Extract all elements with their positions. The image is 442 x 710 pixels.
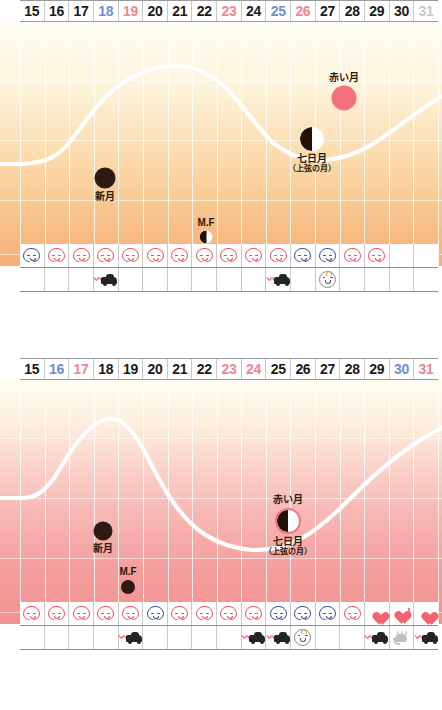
mood-cell-23[interactable] — [217, 244, 242, 267]
mood-cell-28[interactable] — [340, 602, 365, 625]
day-cell-29[interactable]: 29 — [365, 359, 390, 379]
day-cell-30[interactable]: 30 — [390, 1, 415, 21]
event-cell-20[interactable] — [143, 626, 168, 649]
heart-icon[interactable] — [419, 607, 434, 621]
day-cell-22[interactable]: 22 — [192, 1, 217, 21]
event-cell-15[interactable] — [20, 626, 45, 649]
face-icon[interactable] — [196, 248, 213, 264]
event-cell-21[interactable] — [168, 626, 193, 649]
event-cell-20[interactable] — [143, 268, 168, 291]
face-icon[interactable] — [171, 248, 188, 264]
day-cell-27[interactable]: 27 — [316, 1, 341, 21]
face-icon[interactable] — [368, 248, 385, 264]
day-cell-16[interactable]: 16 — [45, 1, 70, 21]
face-icon[interactable] — [48, 248, 65, 264]
day-cell-22[interactable]: 22 — [192, 359, 217, 379]
face-icon[interactable] — [147, 606, 164, 622]
face-icon[interactable] — [270, 248, 287, 264]
mood-cell-27[interactable] — [316, 602, 341, 625]
mood-cell-24[interactable] — [242, 602, 267, 625]
heart-icon[interactable] — [369, 607, 384, 621]
day-cell-16[interactable]: 16 — [45, 359, 70, 379]
day-cell-18[interactable]: 18 — [94, 1, 119, 21]
day-cell-17[interactable]: 17 — [69, 359, 94, 379]
day-cell-15[interactable]: 15 — [20, 1, 45, 21]
car-icon[interactable]: 〰 — [365, 631, 388, 644]
event-cell-25[interactable]: 〰 — [266, 268, 291, 291]
mood-cell-17[interactable] — [69, 602, 94, 625]
car-icon[interactable]: 〰 — [415, 631, 438, 644]
car-icon[interactable]: 〰 — [242, 631, 265, 644]
mood-cell-27[interactable] — [316, 244, 341, 267]
event-cell-23[interactable] — [217, 626, 242, 649]
event-cell-24[interactable]: 〰 — [242, 626, 267, 649]
event-cell-31[interactable]: 〰 — [414, 626, 438, 649]
event-cell-17[interactable] — [69, 268, 94, 291]
day-cell-25[interactable]: 25 — [266, 359, 291, 379]
day-cell-19[interactable]: 19 — [119, 359, 144, 379]
mood-cell-30[interactable]: ! — [390, 602, 415, 625]
face-icon[interactable] — [319, 606, 336, 622]
splash-icon[interactable] — [392, 631, 411, 645]
face-icon[interactable] — [97, 248, 114, 264]
event-cell-29[interactable]: 〰 — [365, 626, 390, 649]
day-cell-23[interactable]: 23 — [217, 359, 242, 379]
day-cell-24[interactable]: 24 — [242, 1, 267, 21]
day-cell-20[interactable]: 20 — [143, 1, 168, 21]
event-cell-21[interactable] — [168, 268, 193, 291]
face-icon[interactable] — [270, 606, 287, 622]
mood-cell-29[interactable] — [365, 244, 390, 267]
day-cell-26[interactable]: 26 — [291, 359, 316, 379]
mood-cell-20[interactable] — [143, 244, 168, 267]
mood-cell-18[interactable] — [94, 602, 119, 625]
day-cell-26[interactable]: 26 — [291, 1, 316, 21]
face-icon[interactable] — [122, 606, 139, 622]
mood-cell-20[interactable] — [143, 602, 168, 625]
mood-cell-23[interactable] — [217, 602, 242, 625]
event-cell-25[interactable]: 〰 — [266, 626, 291, 649]
heart-icon[interactable] — [392, 606, 407, 620]
face-icon[interactable] — [319, 248, 336, 264]
event-cell-28[interactable] — [340, 626, 365, 649]
mood-cell-25[interactable] — [266, 244, 291, 267]
day-cell-27[interactable]: 27 — [316, 359, 341, 379]
day-cell-31[interactable]: 31 — [414, 1, 438, 21]
mood-cell-15[interactable] — [20, 602, 45, 625]
event-cell-18[interactable] — [94, 626, 119, 649]
event-cell-18[interactable]: 〰 — [94, 268, 119, 291]
face-icon[interactable] — [294, 248, 311, 264]
event-cell-17[interactable] — [69, 626, 94, 649]
face-icon[interactable] — [220, 606, 237, 622]
mood-cell-15[interactable] — [20, 244, 45, 267]
mood-cell-24[interactable] — [242, 244, 267, 267]
mood-cell-25[interactable] — [266, 602, 291, 625]
mood-cell-17[interactable] — [69, 244, 94, 267]
day-cell-17[interactable]: 17 — [69, 1, 94, 21]
face-icon[interactable] — [23, 606, 40, 622]
event-cell-19[interactable] — [119, 268, 144, 291]
event-cell-27[interactable] — [316, 626, 341, 649]
event-cell-19[interactable]: 〰 — [119, 626, 144, 649]
face-icon[interactable] — [344, 606, 361, 622]
face-icon[interactable] — [73, 248, 90, 264]
event-cell-26[interactable] — [291, 626, 316, 649]
day-cell-21[interactable]: 21 — [168, 359, 193, 379]
event-cell-29[interactable] — [365, 268, 390, 291]
face-icon[interactable] — [73, 606, 90, 622]
day-cell-20[interactable]: 20 — [143, 359, 168, 379]
car-icon[interactable]: 〰 — [119, 631, 142, 644]
baby-icon[interactable] — [319, 271, 336, 288]
mood-cell-16[interactable] — [45, 244, 70, 267]
face-icon[interactable] — [245, 606, 262, 622]
mood-cell-31[interactable] — [414, 602, 438, 625]
day-cell-24[interactable]: 24 — [242, 359, 267, 379]
event-cell-16[interactable] — [45, 268, 70, 291]
car-icon[interactable]: 〰 — [267, 631, 290, 644]
mood-cell-19[interactable] — [119, 244, 144, 267]
day-cell-25[interactable]: 25 — [266, 1, 291, 21]
face-icon[interactable] — [23, 248, 40, 264]
baby-icon[interactable] — [294, 629, 311, 646]
day-cell-18[interactable]: 18 — [94, 359, 119, 379]
car-icon[interactable]: 〰 — [94, 273, 117, 286]
face-icon[interactable] — [196, 606, 213, 622]
